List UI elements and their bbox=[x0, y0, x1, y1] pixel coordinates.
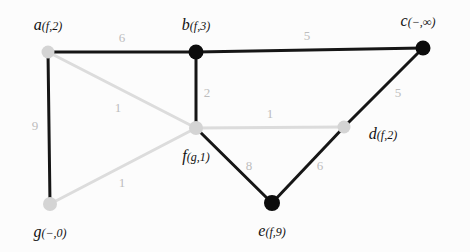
node-name-d: d bbox=[369, 125, 377, 142]
graph-edge-c-d bbox=[344, 48, 423, 127]
graph-node-f[interactable] bbox=[189, 121, 203, 135]
node-annotation-g: (−,0) bbox=[41, 226, 66, 240]
node-annotation-e: (f,9) bbox=[265, 225, 285, 239]
node-label-b: b(f,3) bbox=[182, 17, 210, 33]
edge-weight-b-f: 2 bbox=[204, 86, 211, 99]
node-label-f: f(g,1) bbox=[182, 148, 209, 164]
node-name-b: b bbox=[182, 16, 190, 33]
edge-weight-c-d: 5 bbox=[395, 86, 402, 99]
node-label-a: a(f,2) bbox=[34, 17, 62, 33]
edge-weight-f-e: 8 bbox=[246, 159, 253, 172]
graph-figure: 6915251861 a(f,2)b(f,3)c(−,∞)d(f,2)e(f,9… bbox=[0, 0, 470, 252]
node-label-d: d(f,2) bbox=[369, 126, 397, 142]
node-label-e: e(f,9) bbox=[258, 223, 285, 239]
graph-node-g[interactable] bbox=[43, 197, 57, 211]
node-name-a: a bbox=[34, 16, 42, 33]
edge-layer-dark bbox=[48, 48, 423, 204]
edge-weight-a-f: 1 bbox=[115, 101, 122, 114]
graph-edge-f-e bbox=[196, 128, 272, 203]
edge-weight-b-c: 5 bbox=[304, 29, 311, 42]
graph-edge-b-c bbox=[196, 48, 423, 52]
graph-edge-g-f bbox=[50, 128, 196, 204]
node-annotation-b: (f,3) bbox=[190, 19, 210, 33]
edge-weight-d-e: 6 bbox=[317, 159, 324, 172]
node-annotation-d: (f,2) bbox=[377, 128, 397, 142]
graph-node-e[interactable] bbox=[264, 195, 280, 211]
edge-weight-a-b: 6 bbox=[119, 31, 126, 44]
edge-weight-a-g: 9 bbox=[32, 119, 39, 132]
graph-node-a[interactable] bbox=[42, 46, 55, 59]
node-label-g: g(−,0) bbox=[33, 224, 66, 240]
node-name-g: g bbox=[33, 223, 41, 240]
graph-edge-a-g bbox=[48, 52, 50, 204]
graph-edge-a-f bbox=[48, 52, 196, 128]
graph-edge-f-d bbox=[196, 127, 344, 128]
node-annotation-f: (g,1) bbox=[187, 150, 210, 164]
graph-canvas bbox=[0, 0, 470, 252]
edge-weight-g-f: 1 bbox=[119, 176, 126, 189]
edge-weight-f-d: 1 bbox=[267, 107, 274, 120]
graph-node-c[interactable] bbox=[416, 41, 431, 56]
graph-node-b[interactable] bbox=[189, 45, 204, 60]
node-annotation-a: (f,2) bbox=[42, 19, 62, 33]
graph-edge-d-e bbox=[272, 127, 344, 203]
node-label-c: c(−,∞) bbox=[401, 13, 436, 29]
node-annotation-c: (−,∞) bbox=[408, 15, 436, 29]
graph-node-d[interactable] bbox=[338, 121, 351, 134]
